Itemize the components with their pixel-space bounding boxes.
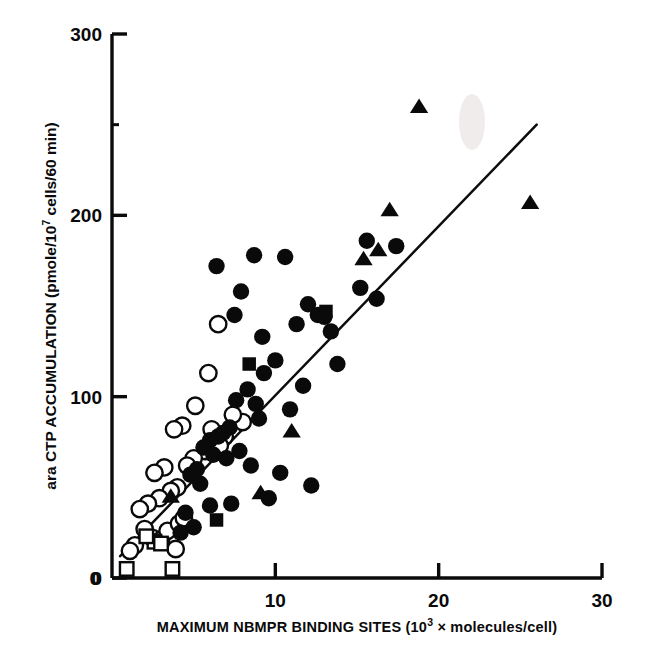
data-point-open-circle (122, 543, 138, 559)
data-point-open-circle (187, 398, 203, 414)
data-point-filled-circle (323, 323, 339, 339)
y-tick-label-200: 200 (70, 205, 102, 226)
x-tick-label-10: 10 (265, 590, 286, 611)
scan-smudge-artifact (459, 94, 485, 150)
data-point-filled-circle (277, 249, 293, 265)
data-point-filled-circle (254, 329, 270, 345)
y-tick-label-300: 300 (70, 24, 102, 45)
data-point-filled-circle (228, 392, 244, 408)
data-point-open-square (154, 537, 168, 551)
series-filled-circles (172, 233, 404, 541)
scatter-plot: 0100200300 0102030 MAXIMUM NBMPR BINDING… (0, 0, 663, 657)
data-point-filled-circle (329, 356, 345, 372)
data-point-open-circle (146, 465, 162, 481)
data-point-filled-circle (251, 410, 267, 426)
data-point-open-circle (168, 541, 184, 557)
y-axis-tick-labels: 0100200300 (70, 24, 102, 589)
y-axis-title: ara CTP ACCUMULATION (pmole/107 cells/60… (40, 122, 59, 489)
figure-container: 0100200300 0102030 MAXIMUM NBMPR BINDING… (0, 0, 663, 657)
data-point-open-circle (200, 365, 216, 381)
axes-group (112, 34, 602, 578)
data-point-filled-circle (233, 283, 249, 299)
series-open-circles (122, 316, 251, 559)
data-point-open-square (120, 562, 134, 576)
y-tick-label-100: 100 (70, 387, 102, 408)
data-point-filled-circle (388, 238, 404, 254)
x-tick-label-20: 20 (428, 590, 449, 611)
data-point-filled-circle (368, 291, 384, 307)
data-point-filled-circle (256, 365, 272, 381)
data-point-filled-circle (295, 378, 311, 394)
data-point-filled-square (319, 305, 333, 319)
x-tick-label-30: 30 (591, 590, 612, 611)
data-point-filled-circle (303, 477, 319, 493)
data-point-open-circle (210, 316, 226, 332)
data-point-filled-triangle (521, 195, 539, 210)
data-point-filled-circle (248, 396, 264, 412)
data-point-filled-triangle (283, 423, 301, 438)
data-point-filled-square (210, 513, 224, 527)
data-point-filled-circle (352, 280, 368, 296)
data-point-filled-triangle (381, 202, 399, 217)
data-point-filled-circle (267, 352, 283, 368)
data-point-filled-circle (177, 505, 193, 521)
data-point-filled-circle (282, 401, 298, 417)
data-point-filled-circle (192, 476, 208, 492)
data-point-filled-circle (208, 258, 224, 274)
y-axis-ticks (112, 34, 127, 578)
data-point-filled-square (242, 357, 256, 371)
data-point-filled-circle (359, 233, 375, 249)
data-point-filled-circle (246, 247, 262, 263)
data-point-filled-circle (202, 497, 218, 513)
data-point-filled-circle (231, 443, 247, 459)
data-point-filled-triangle (410, 98, 428, 113)
x-tick-label-0: 0 (89, 568, 100, 589)
data-point-open-square (140, 530, 154, 544)
data-point-filled-circle (272, 465, 288, 481)
data-point-filled-circle (288, 316, 304, 332)
data-point-filled-circle (172, 524, 188, 540)
x-axis-ticks (275, 563, 602, 578)
data-point-open-circle (166, 421, 182, 437)
data-point-filled-circle (243, 457, 259, 473)
data-point-open-square (166, 562, 180, 576)
data-point-filled-triangle (354, 251, 372, 266)
data-point-open-circle (132, 501, 148, 517)
data-point-filled-circle (223, 495, 239, 511)
x-axis-title: MAXIMUM NBMPR BINDING SITES (103 × molec… (157, 616, 558, 635)
data-point-filled-circle (226, 307, 242, 323)
